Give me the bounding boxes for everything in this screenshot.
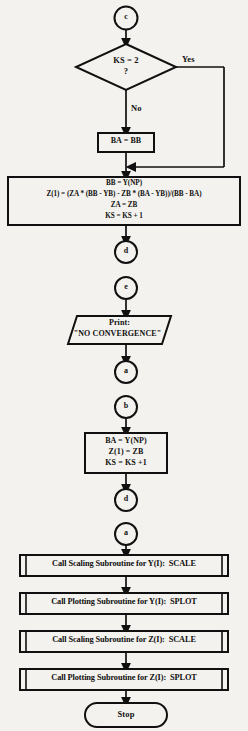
connector-e-label: e (116, 283, 136, 292)
subroutine-splot-z-label: Call Plotting Subroutine for Z(I): SPLOT (28, 674, 220, 683)
process-main-line2: Z(1) = (ZA * (BB - YB) - ZB * (BA - YB))… (8, 191, 240, 199)
process-second-line3: KS = KS +1 (85, 459, 167, 468)
process-second-line2: Z(1) = ZB (85, 448, 167, 457)
io-print-line2: "NO CONVERGENCE" (66, 330, 169, 339)
connector-b-label: b (116, 402, 136, 411)
process-second-line1: BA = Y(NP) (85, 437, 167, 446)
branch-yes-label: Yes (182, 55, 212, 64)
subroutine-scale-y-label: Call Scaling Subroutine for Y(I): SCALE (28, 560, 220, 569)
branch-no-label: No (131, 104, 157, 113)
process-main-line3: ZA = ZB (8, 202, 240, 210)
connector-c-label: c (116, 13, 136, 22)
connector-a2-label: a (116, 529, 136, 538)
process-main-line4: KS = KS + 1 (8, 213, 240, 221)
decision-ks2-line2: ? (96, 67, 156, 76)
connector-a1-label: a (116, 367, 136, 376)
connector-d2-label: d (116, 495, 136, 504)
process-ba-bb-line1: BA = BB (98, 137, 154, 146)
subroutine-scale-z-label: Call Scaling Subroutine for Z(I): SCALE (28, 636, 220, 645)
decision-ks2-line1: KS = 2 (96, 56, 156, 65)
subroutine-splot-y-label: Call Plotting Subroutine for Y(I): SPLOT (28, 598, 220, 607)
terminator-stop-label: Stop (85, 710, 167, 719)
connector-d1-label: d (116, 247, 136, 256)
io-print-line1: Print: (68, 319, 171, 328)
flowchart-canvas: c KS = 2 ? Yes No BA = BB BB = Y(NP) Z(1… (0, 0, 248, 731)
process-main-line1: BB = Y(NP) (8, 180, 240, 188)
